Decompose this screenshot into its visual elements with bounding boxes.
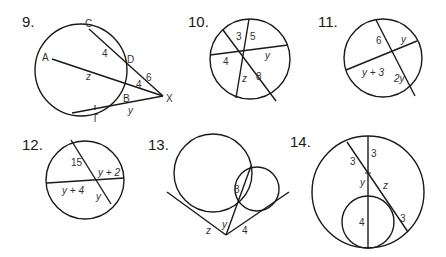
problem-9-point-t: T <box>92 113 98 124</box>
problem-11-number: 11. <box>318 13 338 30</box>
problem-12-chord-2 <box>47 178 124 183</box>
problem-13-label-d: 4 <box>242 225 248 236</box>
problem-9-point-x: X <box>166 93 173 104</box>
problem-10-chord-2 <box>210 45 288 55</box>
problem-13: 13. 8 y z 4 <box>148 134 289 236</box>
problem-14-label-c: y <box>359 177 366 188</box>
problem-9-label-tx: y <box>127 105 134 116</box>
problem-14-label-a: 3 <box>350 156 356 167</box>
problem-10-label-f: 8 <box>256 71 262 82</box>
problem-14-diagonal-chord <box>347 142 408 232</box>
problem-13-label-b: y <box>221 219 228 230</box>
problem-12-label-d: y <box>95 191 102 202</box>
problem-9-point-c: C <box>85 18 92 29</box>
problem-12-label-a: 15 <box>71 157 83 168</box>
problem-9: 9. C A D B X T 4 z 4 6 y <box>22 13 173 124</box>
problem-9-number: 9. <box>22 13 35 30</box>
problem-9-label-cd: 4 <box>102 48 108 59</box>
problem-10-label-c: y <box>264 50 271 61</box>
problem-14-label-f: 3 <box>400 213 406 224</box>
problem-14-label-e: 4 <box>359 217 365 228</box>
problem-12-label-b: y + 2 <box>97 167 120 178</box>
problem-9-circle <box>35 24 127 116</box>
problem-9-label-bx: 4 <box>136 79 142 90</box>
problem-10-number: 10. <box>188 13 209 30</box>
problem-9-point-a: A <box>42 52 49 63</box>
problem-9-secant-cx <box>89 29 163 96</box>
problem-9-point-b: B <box>123 93 130 104</box>
problem-10-label-d: 4 <box>223 56 229 67</box>
problem-11-label-d: 2y <box>393 73 406 84</box>
geometry-problems-diagram: 9. C A D B X T 4 z 4 6 y 10. 3 5 y 4 z 8… <box>0 0 446 257</box>
problem-9-label-dx: 6 <box>146 72 152 83</box>
problem-13-label-a: 8 <box>234 184 240 195</box>
problem-13-large-circle <box>174 134 252 212</box>
problem-14-label-d: z <box>382 180 388 191</box>
problem-12: 12. 15 y + 2 y + 4 y <box>22 136 124 219</box>
problem-11-label-a: 6 <box>376 35 382 46</box>
problem-10-label-e: z <box>241 73 247 84</box>
problem-14-label-b: 3 <box>371 148 377 159</box>
problem-11-label-b: y <box>400 34 407 45</box>
problem-14-number: 14. <box>290 133 311 150</box>
problem-10-label-a: 3 <box>236 31 242 42</box>
problem-11: 11. 6 y y + 3 2y <box>318 13 422 97</box>
problem-10: 10. 3 5 y 4 z 8 <box>188 13 290 101</box>
problem-11-chord-1 <box>376 20 415 96</box>
problem-11-circle <box>344 19 422 97</box>
problem-13-small-circle <box>235 167 279 211</box>
problem-13-label-c: z <box>205 225 211 236</box>
problem-14: 14. 3 3 y z 4 3 <box>290 133 424 248</box>
problem-12-number: 12. <box>22 136 43 153</box>
problem-13-tangent-left <box>167 192 226 235</box>
problem-9-label-ab: z <box>85 71 91 82</box>
problem-11-label-c: y + 3 <box>361 67 384 78</box>
problem-13-number: 13. <box>148 136 169 153</box>
problem-10-label-b: 5 <box>250 31 256 42</box>
problem-12-label-c: y + 4 <box>61 185 84 196</box>
problem-13-tangent-right <box>226 192 289 235</box>
problem-9-point-d: D <box>127 54 134 65</box>
